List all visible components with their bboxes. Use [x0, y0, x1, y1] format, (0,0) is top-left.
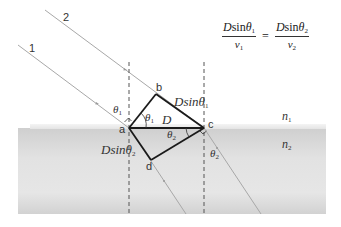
formula-left-numerator: Dsinθ1: [222, 20, 256, 37]
point-label-d: d: [146, 161, 152, 172]
point-label-b: b: [156, 82, 162, 93]
angle-label-bac-theta1: θ1: [145, 112, 154, 125]
formula-sub: 1: [252, 27, 256, 35]
formula-D: D: [276, 20, 285, 34]
formula-sub: 2: [293, 44, 297, 52]
formula-sin: sin: [232, 20, 246, 34]
snell-law-formula: Dsinθ1 v1 = Dsinθ2 v2: [222, 20, 309, 52]
ray-1-arrow-icon: [95, 102, 99, 104]
point-label-c: c: [208, 119, 214, 130]
label-bc-Dsin-theta1: Dsinθ1: [174, 95, 208, 110]
angle-sub: 2: [172, 134, 176, 142]
ray-1-marker-icon: [163, 180, 165, 182]
formula-right-numerator: Dsinθ2: [275, 20, 309, 37]
medium-label-n1: n1: [282, 110, 292, 124]
angle-sub: 2: [215, 153, 219, 161]
label-main: Dsinθ: [174, 94, 205, 109]
formula-right-denominator: v2: [275, 37, 309, 52]
formula-sub: 2: [304, 27, 308, 35]
formula-sub: 1: [240, 44, 244, 52]
label-ad-Dsin-theta2: Dsinθ2: [101, 143, 135, 158]
ray-label-1: 1: [29, 43, 35, 54]
point-label-a: a: [119, 124, 125, 135]
angle-sub: 1: [118, 109, 122, 117]
ray-label-2: 2: [63, 12, 69, 23]
angle-label-refracted-theta2: θ2: [210, 148, 219, 161]
label-sub: 2: [132, 150, 136, 158]
refraction-diagram: Dsinθ1 v1 = Dsinθ2 v2 2 1 b a c d Dsinθ1…: [0, 0, 341, 227]
right-angle-at-a-icon: [125, 118, 132, 122]
formula-equals: =: [262, 29, 269, 44]
angle-label-incident-theta1: θ1: [113, 104, 122, 117]
medium-label-n2: n2: [282, 138, 292, 152]
formula-D: D: [223, 20, 232, 34]
formula-sin: sin: [285, 20, 299, 34]
label-ac-D: D: [162, 113, 171, 126]
medium-sub: 2: [288, 144, 292, 152]
label-main: Dsinθ: [101, 142, 132, 157]
ray-2-arrow-icon: [123, 68, 127, 70]
angle-sub: 1: [150, 117, 154, 125]
angle-label-acd-theta2: θ2: [167, 129, 176, 142]
formula-left-fraction: Dsinθ1 v1: [222, 20, 256, 52]
medium-sub: 1: [288, 116, 292, 124]
formula-left-denominator: v1: [222, 37, 256, 52]
label-sub: 1: [205, 102, 209, 110]
formula-right-fraction: Dsinθ2 v2: [275, 20, 309, 52]
